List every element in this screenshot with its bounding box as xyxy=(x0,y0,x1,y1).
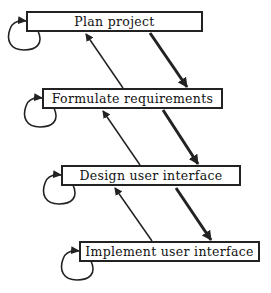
forward-arrow-design-to-implement xyxy=(176,188,211,240)
step-plan-project: Plan project xyxy=(26,11,203,32)
step-label: Design user interface xyxy=(80,168,223,183)
step-implement-user-interface: Implement user interface xyxy=(79,241,260,262)
forward-arrow-requirements-to-design xyxy=(163,110,198,164)
feedback-arrow-implement-to-design xyxy=(115,188,152,241)
step-label: Formulate requirements xyxy=(52,91,213,106)
step-label: Plan project xyxy=(74,14,154,29)
forward-arrow-plan-to-requirements xyxy=(150,33,187,87)
step-design-user-interface: Design user interface xyxy=(61,165,241,186)
feedback-arrow-design-to-requirements xyxy=(103,111,140,165)
feedback-arrow-requirements-to-plan xyxy=(86,34,123,88)
step-label: Implement user interface xyxy=(85,244,253,259)
step-formulate-requirements: Formulate requirements xyxy=(42,88,223,109)
